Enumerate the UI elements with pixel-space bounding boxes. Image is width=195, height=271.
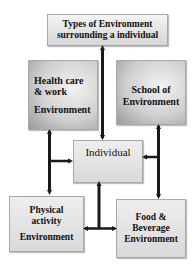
health-care-work-environment-node: Health care & work Environment xyxy=(28,60,98,130)
node-label-line: Environment xyxy=(34,104,91,116)
physical-activity-environment-node: Physical activity Environment xyxy=(9,196,84,252)
node-label-line: Health care xyxy=(34,75,84,87)
node-label-line: Environment xyxy=(124,234,178,245)
node-label-line: Environment xyxy=(123,96,180,108)
node-label-line: Food & xyxy=(136,212,167,223)
school-environment-node: School of Environment xyxy=(116,60,186,125)
arrow-tip-icon xyxy=(47,190,52,195)
node-label-line: activity xyxy=(31,216,61,227)
node-label-line: Beverage xyxy=(132,223,169,234)
node-label-line: Individual xyxy=(85,146,130,159)
node-label-line: School of xyxy=(131,84,170,96)
title-line-1: Types of Environment xyxy=(63,19,153,30)
node-label-line: & work xyxy=(34,86,67,98)
node-label-line: Physical xyxy=(30,205,64,216)
title-line-2: surrounding a individual xyxy=(57,30,158,41)
individual-node: Individual xyxy=(73,140,143,183)
node-label-line: Environment xyxy=(20,232,74,243)
food-beverage-environment-node: Food & Beverage Environment xyxy=(116,199,186,258)
title-node: Types of Environment surrounding a indiv… xyxy=(47,14,168,46)
